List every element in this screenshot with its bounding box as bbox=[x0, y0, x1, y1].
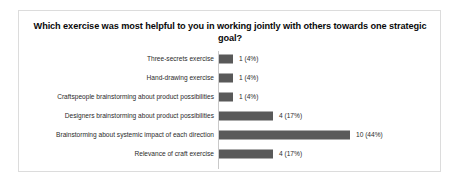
category-label: Relevance of craft exercise bbox=[134, 150, 214, 158]
bar-track bbox=[219, 92, 233, 101]
category-label: Three-secrets exercise bbox=[147, 55, 214, 63]
value-label: 10 (44%) bbox=[356, 131, 383, 139]
bar-fill bbox=[219, 54, 233, 63]
bar-row: Designers brainstorming about product po… bbox=[19, 106, 440, 125]
bar-fill bbox=[219, 73, 233, 82]
category-label: Brainstorming about systemic impact of e… bbox=[56, 131, 214, 139]
value-label: 4 (17%) bbox=[279, 150, 302, 158]
bar-track bbox=[219, 149, 273, 158]
bar-fill bbox=[219, 92, 233, 101]
chart-container: Which exercise was most helpful to you i… bbox=[18, 10, 441, 172]
bar-row: Three-secrets exercise 1 (4%) bbox=[19, 49, 440, 68]
value-label: 1 (4%) bbox=[239, 93, 258, 101]
bar-fill bbox=[219, 149, 273, 158]
category-label: Craftspeople brainstorming about product… bbox=[57, 93, 214, 101]
bar-row: Craftspeople brainstorming about product… bbox=[19, 87, 440, 106]
chart-title: Which exercise was most helpful to you i… bbox=[29, 20, 431, 44]
value-label: 1 (4%) bbox=[239, 55, 258, 63]
bar-fill bbox=[219, 130, 350, 139]
bar-row: Hand-drawing exercise 1 (4%) bbox=[19, 68, 440, 87]
bar-row: Relevance of craft exercise 4 (17%) bbox=[19, 144, 440, 163]
plot-area: Three-secrets exercise 1 (4%) Hand-drawi… bbox=[19, 49, 440, 171]
category-label: Designers brainstorming about product po… bbox=[65, 112, 214, 120]
bar-track bbox=[219, 54, 233, 63]
bar-row: Brainstorming about systemic impact of e… bbox=[19, 125, 440, 144]
bar-track bbox=[219, 130, 350, 139]
category-label: Hand-drawing exercise bbox=[147, 74, 214, 82]
bar-fill bbox=[219, 111, 273, 120]
value-label: 1 (4%) bbox=[239, 74, 258, 82]
bar-track bbox=[219, 73, 233, 82]
bar-track bbox=[219, 111, 273, 120]
value-label: 4 (17%) bbox=[279, 112, 302, 120]
